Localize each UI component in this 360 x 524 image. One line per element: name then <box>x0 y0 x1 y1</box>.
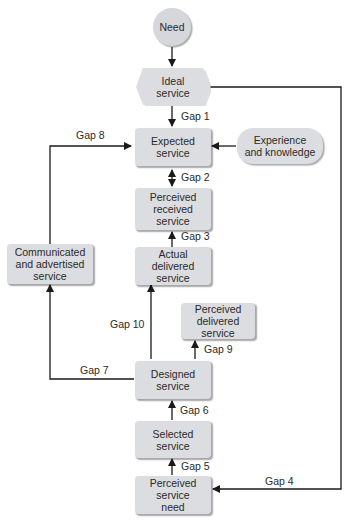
gap-1-label: Gap 1 <box>181 110 210 122</box>
node-ideal-label: Ideal service <box>156 75 189 99</box>
node-selected-service: Selected service <box>135 421 211 458</box>
node-perceived-received-service: Perceived received service <box>135 188 211 230</box>
node-designed-service: Designed service <box>135 361 211 399</box>
gap-5-label: Gap 5 <box>181 460 210 472</box>
gap-2-label: Gap 2 <box>181 171 210 183</box>
node-experience-knowledge: Experience and knowledge <box>237 128 323 164</box>
node-perceived-received-label: Perceived received service <box>150 191 197 227</box>
gap-10-label: Gap 10 <box>110 318 144 330</box>
node-perceived-service-need: Perceived service need <box>135 476 211 514</box>
gap-8-label: Gap 8 <box>76 129 105 141</box>
gap-4-label: Gap 4 <box>265 475 294 487</box>
node-expected-label: Expected service <box>151 135 195 159</box>
gap-6-label: Gap 6 <box>180 404 209 416</box>
node-designed-label: Designed service <box>151 368 195 392</box>
gap-7-label: Gap 7 <box>80 364 109 376</box>
node-perceived-need-label: Perceived service need <box>150 477 197 513</box>
node-actual-delivered-service: Actual delivered service <box>135 247 211 285</box>
node-communicated-label: Communicated and advertised service <box>15 246 86 282</box>
node-perceived-delivered-label: Perceived delivered service <box>195 303 242 339</box>
gap-9-label: Gap 9 <box>204 343 233 355</box>
node-experience-label: Experience and knowledge <box>245 134 316 158</box>
gap-3-label: Gap 3 <box>181 230 210 242</box>
node-selected-label: Selected service <box>153 428 194 452</box>
node-communicated-advertised-service: Communicated and advertised service <box>7 244 93 284</box>
node-actual-delivered-label: Actual delivered service <box>152 248 195 284</box>
node-need-label: Need <box>159 21 184 33</box>
node-need: Need <box>153 8 191 46</box>
node-perceived-delivered-service: Perceived delivered service <box>181 303 255 339</box>
node-ideal-service: Ideal service <box>135 68 211 106</box>
gap-model-diagram: Need Ideal service Expected service Expe… <box>0 0 360 524</box>
node-expected-service: Expected service <box>135 128 211 166</box>
